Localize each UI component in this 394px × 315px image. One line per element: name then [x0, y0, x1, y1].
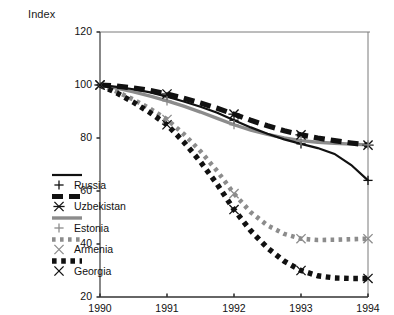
- legend-marker-uzbekistan: [53, 202, 64, 211]
- markers-georgia: [95, 80, 372, 283]
- chart-container: Index 20406080100120 1990199119921993199…: [0, 0, 394, 315]
- markers-armenia: [95, 80, 372, 243]
- x-axis-tick-label: 1994: [343, 302, 393, 314]
- legend-item-russia[interactable]: Russia: [74, 179, 106, 191]
- y-axis-tick-label: 100: [52, 78, 92, 90]
- y-axis-tick-label: 80: [52, 131, 92, 143]
- legend-marker-estonia: [54, 223, 63, 232]
- legend-item-uzbekistan[interactable]: Uzbekistan: [74, 200, 126, 212]
- series-russia: [100, 85, 368, 180]
- x-axis-tick-label: 1992: [209, 302, 259, 314]
- x-axis-tick-label: 1993: [276, 302, 326, 314]
- legend-item-armenia[interactable]: Armenia: [74, 243, 113, 255]
- legend-marker-georgia: [54, 266, 63, 275]
- y-axis-tick-label: 20: [52, 290, 92, 302]
- series-line-russia: [100, 85, 368, 180]
- x-axis-tick-label: 1990: [75, 302, 125, 314]
- legend-item-georgia[interactable]: Georgia: [74, 265, 111, 277]
- markers-russia: [162, 92, 372, 185]
- legend-item-estonia[interactable]: Estonia: [74, 222, 109, 234]
- x-axis-tick-label: 1991: [142, 302, 192, 314]
- chart-canvas: [0, 0, 394, 315]
- y-axis-tick-label: 120: [52, 25, 92, 37]
